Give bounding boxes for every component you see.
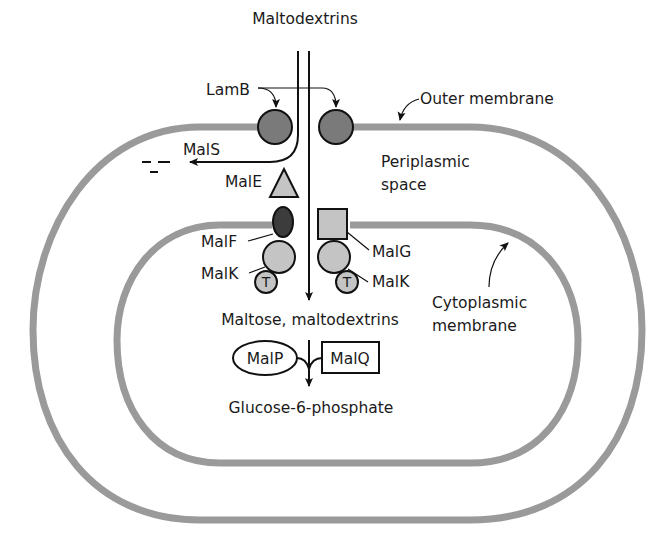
outer-membrane-label: Outer membrane — [420, 90, 554, 108]
malq-join — [309, 358, 322, 369]
malf-leader — [248, 234, 273, 241]
malp-join — [297, 358, 309, 369]
malg-leader — [347, 232, 369, 250]
cytoplasmic-membrane-label-line1: Cytoplasmic — [432, 294, 527, 312]
t-left-label: T — [261, 274, 271, 290]
glucose-6-phosphate-label: Glucose-6-phosphate — [229, 399, 394, 417]
malk-left-label: MalK — [201, 265, 239, 283]
maltose-transport-diagram: Maltodextrins LamB Outer membrane MalS M… — [0, 0, 669, 543]
malf-protein — [273, 207, 293, 237]
malq-label: MalQ — [330, 350, 369, 368]
maltodextrins-top-label: Maltodextrins — [252, 10, 358, 28]
malp-label: MalP — [247, 350, 284, 368]
malk-left-protein — [263, 241, 295, 273]
t-right-label: T — [342, 274, 352, 290]
outer-membrane-pointer — [400, 99, 419, 120]
lamb-connector-left — [258, 88, 276, 107]
periplasmic-space-label-line1: Periplasmic — [381, 153, 470, 171]
lamb-porin-left — [258, 110, 292, 144]
malg-label: MalG — [372, 243, 411, 261]
periplasmic-space-label-line2: space — [381, 176, 426, 194]
male-label: MalE — [225, 173, 262, 191]
lamb-label: LamB — [206, 81, 250, 99]
degradation-dashes — [142, 162, 170, 172]
cytoplasmic-membrane-label-line2: membrane — [432, 317, 517, 335]
cytoplasm-substrate-label: Maltose, maltodextrins — [221, 311, 399, 329]
lamb-porin-right — [319, 110, 353, 144]
malk-right-label: MalK — [372, 273, 410, 291]
malk-right-protein — [318, 241, 350, 273]
mals-label: MalS — [183, 141, 220, 159]
cytoplasmic-membrane-pointer — [489, 243, 508, 287]
malg-protein — [318, 209, 347, 239]
malf-label: MalF — [201, 233, 237, 251]
male-binding-protein — [270, 169, 298, 197]
